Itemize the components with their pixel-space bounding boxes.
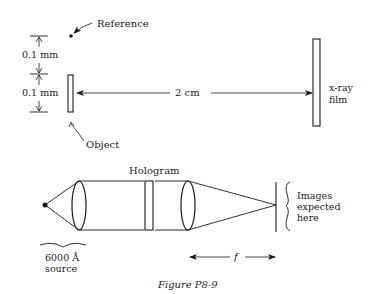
dimension-label-top: 0.1 mm [22, 49, 58, 60]
hologram-label: Hologram [129, 165, 180, 176]
source-label-line1: 6000 Å [45, 252, 79, 263]
images-label-line3: here [297, 212, 319, 223]
hologram-plate [145, 181, 153, 230]
images-label-line1: Images [297, 190, 332, 201]
film-label-line2: film [329, 94, 347, 105]
source-brace [40, 243, 86, 247]
dimension-markers [30, 36, 48, 112]
film-label-line1: x-ray [329, 82, 354, 93]
reference-pointer-arrow [74, 23, 92, 33]
focal-length-label: f [233, 251, 240, 262]
top-setup: Reference 0.1 mm 0.1 mm Object 2 cm [22, 18, 354, 150]
focusing-lens [181, 181, 195, 230]
object-slab [68, 75, 73, 112]
source-label-line2: source [45, 263, 78, 274]
collimating-lens [72, 181, 86, 230]
hologram-diagram: Reference 0.1 mm 0.1 mm Object 2 cm [0, 0, 370, 294]
figure-caption: Figure P8-9 [157, 279, 218, 290]
object-label: Object [86, 139, 119, 150]
dimension-label-bottom: 0.1 mm [22, 87, 58, 98]
bottom-setup: Hologram Images expected here 6000 Å sou… [40, 165, 341, 274]
reference-point [69, 34, 73, 38]
object-pointer-curve [71, 124, 84, 141]
images-brace [286, 182, 290, 231]
reference-label: Reference [97, 18, 149, 29]
distance-label: 2 cm [175, 87, 200, 98]
xray-film [313, 39, 320, 126]
images-label-line2: expected [297, 201, 341, 212]
